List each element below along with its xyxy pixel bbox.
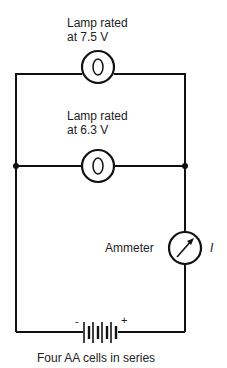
battery-label: Four AA cells in series xyxy=(37,351,155,365)
lamp-6-3v-icon xyxy=(82,150,114,182)
battery-icon xyxy=(84,322,116,343)
ammeter-icon xyxy=(169,232,201,264)
battery-negative: - xyxy=(75,314,79,328)
lamp1-label: Lamp rated at 7.5 V xyxy=(67,16,128,44)
battery-positive: + xyxy=(121,313,127,327)
lamp-7-5v-icon xyxy=(82,51,114,83)
current-symbol: I xyxy=(210,241,213,255)
lamp2-label: Lamp rated at 6.3 V xyxy=(67,109,128,137)
circuit-wires xyxy=(0,0,227,368)
circuit-diagram: Lamp rated at 7.5 V Lamp rated at 6.3 V … xyxy=(0,0,227,368)
ammeter-label: Ammeter xyxy=(105,241,154,255)
